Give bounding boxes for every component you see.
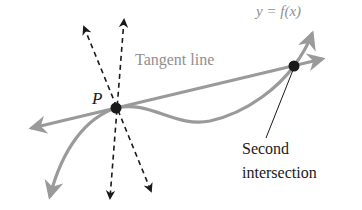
second-intersection-label-line2: intersection	[242, 161, 317, 185]
second-intersection-point	[289, 61, 300, 72]
tangent-line-label: Tangent line	[135, 51, 214, 69]
second-intersection-label: Second intersection	[242, 137, 317, 185]
point-p	[111, 103, 122, 114]
second-intersection-leader	[266, 70, 293, 138]
function-label: y = f(x)	[256, 3, 301, 20]
second-intersection-label-line1: Second	[242, 137, 317, 161]
tangent-diagram: y = f(x) Tangent line P Second intersect…	[0, 0, 362, 210]
point-p-label: P	[92, 89, 102, 109]
